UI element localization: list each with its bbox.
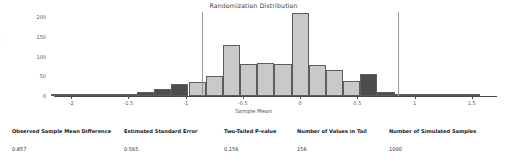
x-axis-tick [243, 96, 244, 99]
reference-line [398, 12, 399, 96]
histogram-bars [54, 14, 497, 99]
x-axis-tick [472, 96, 473, 99]
histogram-chart: Randomization Distribution Frequency -2-… [0, 0, 507, 125]
summary-column: Number of Simulated Samples1000 [389, 128, 476, 153]
y-axis-tick-label: 50 [26, 73, 46, 79]
x-axis-tick [128, 96, 129, 99]
x-axis-tick-label: 0.5 [353, 100, 361, 106]
summary-statistics-table: Observed Sample Mean Difference0.857Esti… [0, 128, 507, 165]
summary-column-header: Observed Sample Mean Difference [12, 128, 111, 135]
summary-column-value: 1000 [389, 146, 476, 153]
y-axis-tick-label: 150 [26, 34, 46, 40]
reference-line [202, 12, 203, 96]
x-axis-tick-label: -0.5 [238, 100, 248, 106]
x-axis-title: Sample Mean [0, 108, 507, 114]
histogram-bar [309, 65, 326, 96]
x-axis-tick-label: 0 [299, 100, 302, 106]
x-axis-tick-label: -1.5 [124, 100, 134, 106]
x-axis-tick [71, 96, 72, 99]
histogram-bar [360, 74, 377, 96]
summary-column-header: Two-Tailed P-value [224, 128, 276, 135]
summary-column-header: Number of Simulated Samples [389, 128, 476, 135]
histogram-bar [292, 13, 309, 96]
summary-column: Estimated Standard Error0.565 [124, 128, 197, 153]
x-axis-tick [300, 96, 301, 99]
x-axis-tick-label: -2 [69, 100, 74, 106]
y-axis-tick-label: 200 [26, 14, 46, 20]
x-axis-tick [415, 96, 416, 99]
histogram-bar [240, 64, 257, 96]
x-axis-tick-label: -1 [183, 100, 188, 106]
plot-area [54, 14, 497, 99]
summary-column-value: 0.857 [12, 146, 111, 153]
chart-title: Randomization Distribution [0, 2, 507, 9]
histogram-bar [206, 76, 223, 96]
histogram-bar [343, 81, 360, 96]
x-axis-line [54, 96, 497, 97]
y-axis-tick-label: 0 [26, 93, 46, 99]
histogram-bar [154, 89, 171, 96]
x-axis-tick-label: 1.5 [468, 100, 476, 106]
summary-column: Number of Values in Tail156 [297, 128, 367, 153]
randomization-distribution-panel: Randomization Distribution Frequency -2-… [0, 0, 507, 165]
histogram-bar [326, 70, 343, 96]
summary-column-value: 0.156 [224, 146, 276, 153]
histogram-bar [257, 63, 274, 96]
summary-column-value: 156 [297, 146, 367, 153]
histogram-bar [223, 45, 240, 96]
summary-column-value: 0.565 [124, 146, 197, 153]
summary-column: Two-Tailed P-value0.156 [224, 128, 276, 153]
histogram-bar [274, 64, 291, 96]
histogram-bar [189, 82, 206, 96]
x-axis-tick [186, 96, 187, 99]
x-axis-tick-label: 1 [413, 100, 416, 106]
summary-column: Observed Sample Mean Difference0.857 [12, 128, 111, 153]
x-axis-tick [357, 96, 358, 99]
histogram-bar [171, 84, 188, 96]
y-axis-tick-label: 100 [26, 54, 46, 60]
summary-column-header: Estimated Standard Error [124, 128, 197, 135]
summary-column-header: Number of Values in Tail [297, 128, 367, 135]
